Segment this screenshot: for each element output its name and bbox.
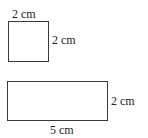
rectangle-shape — [7, 81, 108, 121]
rectangle-bottom-label: 5 cm — [50, 124, 74, 136]
square-side-label: 2 cm — [52, 34, 76, 46]
rectangle-side-label: 2 cm — [111, 95, 135, 107]
square-shape — [8, 21, 49, 62]
square-top-label: 2 cm — [12, 8, 36, 20]
